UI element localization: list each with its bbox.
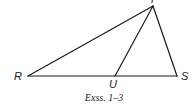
point-label-r: R [14,70,22,82]
triangle-diagram: T R S U Exss. 1–3 [0,0,195,110]
point-label-u: U [109,78,117,90]
point-label-s: S [181,70,189,82]
figure-caption: Exss. 1–3 [84,92,123,103]
point-label-t: T [149,0,157,5]
segment-ts [153,6,177,76]
